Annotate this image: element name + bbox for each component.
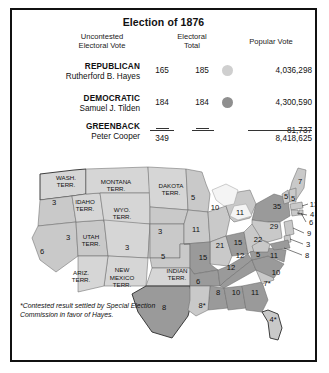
table-row-republican: REPUBLICAN Rutherford B. Hayes 165 185 4…	[12, 62, 315, 88]
votes-vermont: 5	[284, 192, 288, 201]
popular-vote-value: 4,036,298	[238, 66, 312, 75]
legend-swatch-republican	[222, 65, 233, 76]
uncontested-value: 165	[142, 66, 182, 75]
party-block: DEMOCRATIC Samuel J. Tilden	[16, 94, 140, 114]
figure-title: Election of 1876	[12, 16, 315, 28]
sum-rule-uncontested	[150, 130, 174, 131]
sum-rule-electoral-total	[192, 130, 214, 131]
votes-kansas: 5	[161, 252, 165, 261]
electoral-total-value: 185	[184, 66, 220, 75]
label-indian-territory: INDIAN	[167, 267, 188, 274]
label-idaho-territory: TERR.	[76, 205, 95, 212]
label-arizona-territory: ARIZ.	[73, 269, 89, 276]
votes-nebraska: 3	[158, 227, 162, 236]
label-dakota-territory: TERR.	[162, 189, 181, 196]
leader-line-maryland	[284, 248, 302, 255]
votes-arkansas: 6	[196, 277, 200, 286]
votes-georgia: 11	[251, 288, 259, 297]
votes-rhode-island: 6	[309, 218, 313, 227]
electoral-map: WASH.TERR.MONTANATERR.DAKOTATERR.IDAHOTE…	[12, 160, 315, 362]
legend-swatch-democratic	[222, 97, 233, 108]
label-arizona-territory: TERR.	[72, 276, 91, 283]
label-indian-territory: TERR.	[168, 274, 187, 281]
votes-minnesota: 5	[191, 193, 195, 202]
label-wyoming-territory: TERR.	[113, 213, 132, 220]
votes-florida: 4*	[269, 315, 276, 324]
votes-virginia: 11	[270, 251, 278, 260]
state-oregon	[38, 196, 76, 226]
uncontested-value: 184	[142, 98, 182, 107]
votes-mississippi: 8	[216, 288, 220, 297]
total-popular-vote: 8,418,625	[238, 134, 312, 143]
label-montana-territory: TERR.	[107, 185, 126, 192]
votes-north-carolina: 10	[272, 268, 280, 277]
map-footnote: *Contested result settled by Special Ele…	[20, 302, 180, 319]
column-header-electoral-total: Electoral Total	[162, 32, 222, 50]
votes-iowa: 11	[192, 225, 200, 234]
label-washington-territory: TERR.	[57, 181, 76, 188]
table-row-democratic: DEMOCRATIC Samuel J. Tilden 184 184 4,30…	[12, 94, 315, 120]
votes-nevada: 3	[66, 233, 70, 242]
state-minnesota	[186, 169, 210, 212]
label-utah-territory: TERR.	[82, 240, 101, 247]
label-new-mexico-territory: MEXICO	[110, 274, 135, 281]
votes-missouri: 15	[199, 253, 207, 262]
popular-vote-value: 4,300,590	[238, 98, 312, 107]
party-block: GREENBACK Peter Cooper	[16, 122, 140, 142]
state-nebraska	[150, 224, 184, 258]
votes-new-york: 35	[273, 202, 281, 211]
votes-colorado: 3	[125, 243, 129, 252]
votes-alabama: 10	[232, 288, 240, 297]
electoral-total-value: 184	[184, 98, 220, 107]
label-utah-territory: UTAH	[83, 233, 99, 240]
column-header-uncontested: Uncontested Electoral Vote	[64, 32, 140, 50]
label-washington-territory: WASH.	[56, 174, 76, 181]
results-table: Election of 1876 Uncontested Electoral V…	[12, 10, 315, 162]
state-massachusetts	[290, 202, 303, 210]
votes-west-virginia: 5	[256, 250, 260, 259]
label-montana-territory: MONTANA	[101, 178, 132, 185]
sum-rule-popular	[248, 130, 312, 131]
state-utah-territory	[104, 220, 150, 258]
votes-massachusetts: 13	[310, 200, 315, 209]
votes-tennessee: 12	[227, 263, 235, 272]
label-new-mexico-territory: NEW	[115, 266, 130, 273]
state-maryland	[270, 240, 290, 250]
label-wyoming-territory: WYO.	[114, 206, 131, 213]
label-idaho-territory: IDAHO	[75, 198, 95, 205]
votes-louisiana: 8*	[198, 301, 205, 310]
votes-michigan: 11	[236, 208, 244, 217]
votes-new-jersey: 9	[307, 229, 311, 238]
votes-kentucky: 12	[236, 251, 244, 260]
votes-ohio: 22	[254, 235, 262, 244]
leader-line-delaware	[290, 239, 303, 244]
votes-delaware: 3	[306, 240, 310, 249]
votes-maine: 7	[298, 177, 302, 186]
column-header-popular-vote: Popular Vote	[230, 37, 312, 46]
label-dakota-territory: DAKOTA	[159, 182, 185, 189]
votes-wisconsin: 10	[211, 203, 219, 212]
label-new-mexico-territory: TERR.	[113, 281, 132, 288]
votes-new-hampshire: 5	[291, 194, 295, 203]
leader-line-massachusetts	[302, 204, 308, 206]
votes-california: 6	[40, 247, 44, 256]
votes-oregon: 3	[52, 198, 56, 207]
leader-line-new-jersey	[293, 228, 304, 233]
total-uncontested: 349	[142, 134, 182, 143]
votes-south-carolina: 7*	[263, 279, 270, 288]
votes-indiana: 15	[234, 238, 242, 247]
party-block: REPUBLICAN Rutherford B. Hayes	[16, 62, 140, 82]
map-svg: WASH.TERR.MONTANATERR.DAKOTATERR.IDAHOTE…	[12, 160, 315, 362]
votes-illinois: 21	[216, 241, 224, 250]
votes-pennsylvania: 29	[270, 222, 278, 231]
votes-maryland: 8	[305, 251, 309, 260]
state-nebraska-upper	[150, 207, 188, 224]
election-figure: Election of 1876 Uncontested Electoral V…	[10, 8, 317, 362]
state-new-jersey	[284, 220, 294, 236]
